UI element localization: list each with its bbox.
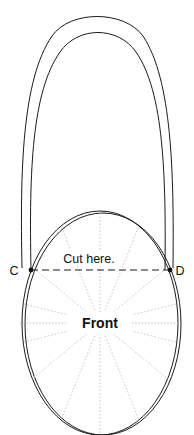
spoke-ray (61, 226, 100, 323)
point-d-marker (168, 268, 173, 273)
cut-here-label: Cut here. (63, 252, 114, 266)
pattern-diagram: C D Cut here. Front (0, 0, 194, 435)
upper-inner-outline (31, 33, 166, 271)
front-label: Front (82, 315, 118, 331)
pattern-diagram-svg: C D Cut here. Front (0, 0, 194, 435)
spoke-ray (100, 226, 139, 323)
point-d-label: D (175, 264, 184, 278)
spoke-ray (61, 323, 100, 420)
point-c-label: C (9, 264, 18, 278)
spoke-ray (100, 323, 139, 420)
point-c-marker (29, 268, 34, 273)
upper-outer-outline (21, 17, 173, 269)
